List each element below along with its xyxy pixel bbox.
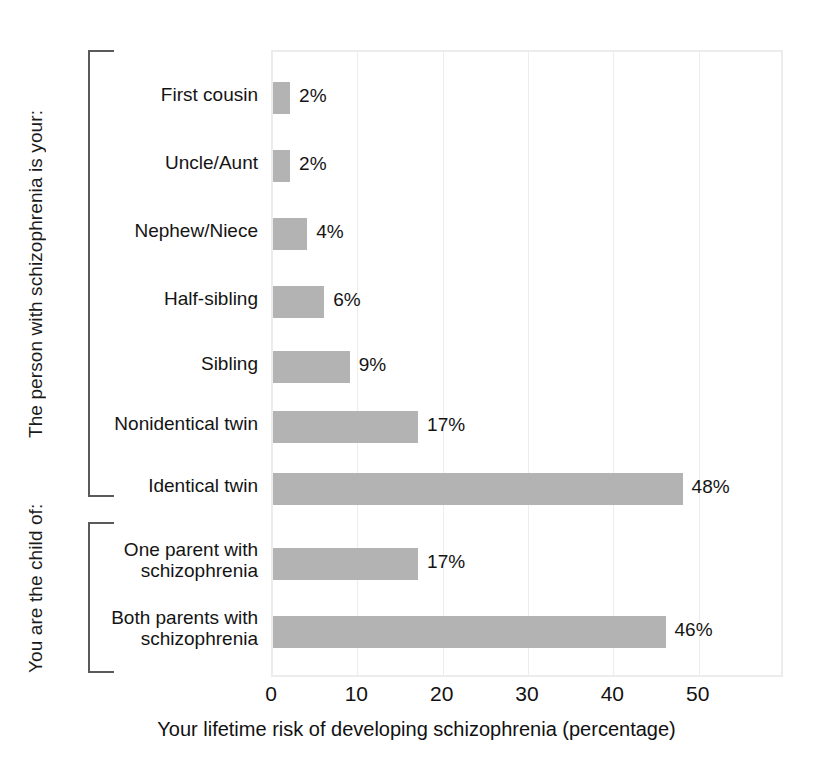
group-label-parents: You are the child of:: [26, 522, 45, 673]
bracket-tick-bottom: [88, 495, 114, 497]
x-tick-label: 20: [430, 682, 453, 706]
x-tick-label: 0: [265, 682, 277, 706]
bar-value-label: 17%: [427, 551, 465, 573]
bar-value-label: 9%: [359, 354, 386, 376]
bar: [273, 616, 666, 648]
category-label: Sibling: [201, 353, 258, 374]
category-label: First cousin: [161, 84, 258, 105]
bar: [273, 548, 418, 580]
x-tick-label: 10: [345, 682, 368, 706]
bracket-tick-bottom: [88, 671, 114, 673]
bar: [273, 411, 418, 443]
bar: [273, 351, 350, 383]
x-axis-title: Your lifetime risk of developing schizop…: [0, 718, 833, 741]
category-label: One parent with schizophrenia: [124, 539, 258, 581]
category-label: Both parents with schizophrenia: [111, 607, 258, 649]
bar-value-label: 46%: [675, 619, 713, 641]
bar: [273, 473, 683, 505]
bar-value-label: 2%: [299, 153, 326, 175]
x-tick-label: 30: [515, 682, 538, 706]
bar-value-label: 17%: [427, 414, 465, 436]
bar: [273, 150, 290, 182]
bracket-tick-top: [88, 50, 114, 52]
category-label: Nephew/Niece: [134, 220, 258, 241]
x-tick-label: 50: [686, 682, 709, 706]
gridline: [443, 52, 444, 675]
gridline: [528, 52, 529, 675]
bar: [273, 286, 324, 318]
bar: [273, 82, 290, 114]
gridline: [613, 52, 614, 675]
category-label: Half-sibling: [164, 288, 258, 309]
bar: [273, 218, 307, 250]
x-tick-label: 40: [601, 682, 624, 706]
bracket-vertical-line: [88, 522, 90, 673]
bar-value-label: 2%: [299, 85, 326, 107]
bracket-vertical-line: [88, 50, 90, 497]
bar-value-label: 48%: [692, 476, 730, 498]
category-label: Uncle/Aunt: [165, 152, 258, 173]
bar-value-label: 6%: [333, 289, 360, 311]
bracket-tick-top: [88, 522, 114, 524]
bar-value-label: 4%: [316, 221, 343, 243]
bracket-parents: [88, 522, 114, 673]
gridline: [699, 52, 700, 675]
bracket-relatives: [88, 50, 114, 497]
group-label-relatives: The person with schizophrenia is your:: [26, 50, 45, 497]
category-label: Identical twin: [148, 475, 258, 496]
chart-figure: The person with schizophrenia is your: Y…: [0, 0, 833, 775]
plot-area: [271, 50, 783, 677]
category-label: Nonidentical twin: [114, 413, 258, 434]
